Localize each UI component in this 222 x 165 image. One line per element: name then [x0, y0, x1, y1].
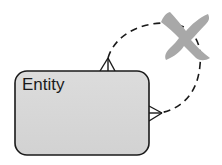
crows-foot-top-icon: [100, 58, 115, 71]
crows-foot-right-icon: [149, 106, 162, 121]
cross-mark-icon: [161, 12, 210, 60]
entity-label: Entity: [22, 75, 65, 95]
